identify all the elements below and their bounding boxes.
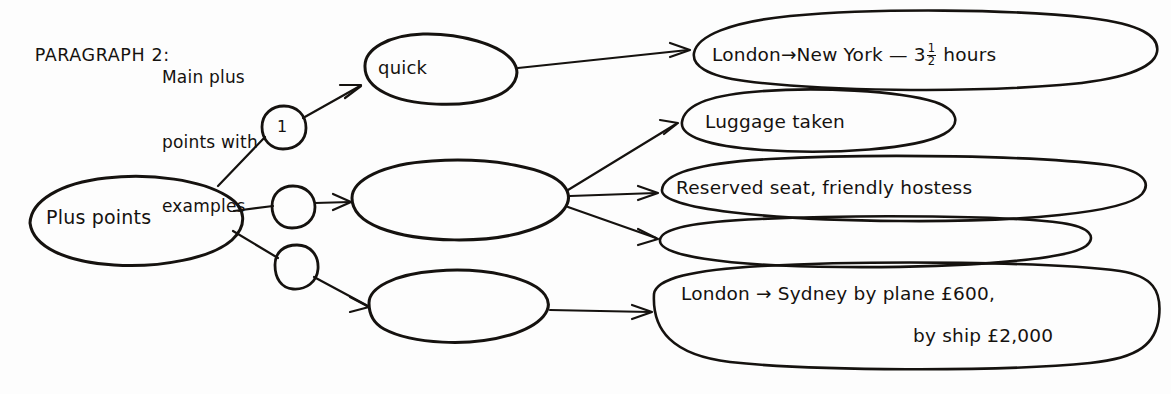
root-node-label: Plus points — [46, 206, 151, 228]
page-title-line1: Main plus — [162, 67, 258, 89]
example3-label: Reserved seat, friendly hostess — [676, 177, 972, 198]
example4-bubble-outline[interactable] — [660, 216, 1091, 267]
marker3-circle[interactable] — [275, 245, 318, 289]
example5-label-line2: by ship £2,000 — [913, 325, 1053, 346]
example2-label: Luggage taken — [705, 111, 845, 132]
page-title-line3: examples — [162, 196, 258, 218]
link-branch2-to-example4 — [568, 207, 656, 238]
page-title-prefix: PARAGRAPH 2: — [35, 45, 170, 65]
arrowhead-to-example4 — [638, 229, 658, 245]
example1-hours-whole: 3 — [914, 44, 926, 65]
example1-label: London→New York — 312 hours — [712, 43, 996, 67]
example5-label-line1: London → Sydney by plane £600, — [681, 283, 995, 304]
link-branch2-to-example2 — [568, 124, 676, 190]
fraction-denominator: 2 — [927, 56, 937, 68]
link-branch2-to-example3 — [570, 193, 656, 196]
arrowhead-to-branch3 — [350, 297, 369, 312]
link-branch3-to-example5 — [550, 310, 650, 312]
example1-to: New York — [797, 44, 883, 65]
example1-half-fraction: 12 — [927, 43, 937, 67]
example5-to: Sydney by plane £600, — [778, 283, 995, 304]
page-title: PARAGRAPH 2: — [10, 24, 170, 87]
mindmap-canvas: PARAGRAPH 2: Main plus points with examp… — [0, 0, 1171, 394]
example1-dash: — — [889, 44, 908, 65]
marker2-circle[interactable] — [272, 186, 315, 228]
example1-unit: hours — [943, 44, 996, 65]
example5-bubble-outline[interactable] — [654, 263, 1160, 370]
page-title-detail: Main plus points with examples — [162, 24, 258, 261]
quick-node-label: quick — [378, 57, 427, 78]
branch3-node-outline[interactable] — [369, 270, 548, 342]
link-quick-to-example1 — [518, 50, 688, 68]
branch2-node-outline[interactable] — [352, 160, 568, 240]
example1-arrow: → — [781, 44, 797, 65]
page-title-line2: points with — [162, 132, 258, 154]
example1-from: London — [712, 44, 781, 65]
example5-arrow: → — [756, 283, 772, 304]
link-marker1-to-quick — [303, 86, 360, 118]
marker1-label: 1 — [277, 117, 287, 136]
link-marker2-to-branch2 — [315, 202, 350, 203]
example5-from: London — [681, 283, 750, 304]
